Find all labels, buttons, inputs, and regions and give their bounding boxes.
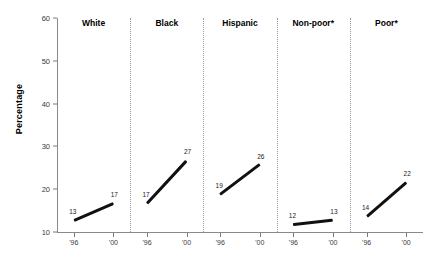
data-point-label: 13: [330, 208, 337, 215]
x-tick-label: '96: [216, 239, 225, 246]
y-tick-label: 30: [30, 142, 50, 151]
data-point-label: 13: [69, 208, 76, 215]
x-tick-label: '00: [402, 239, 411, 246]
x-tick-mark: [293, 233, 294, 237]
x-axis-line: [57, 232, 423, 233]
panel-separator: [203, 18, 204, 232]
data-point-label: 17: [142, 191, 149, 198]
x-tick-mark: [74, 233, 75, 237]
chart-container: Percentage 102030405060 White'96'001317B…: [0, 0, 429, 260]
panel-title-hispanic: Hispanic: [222, 18, 257, 28]
x-tick-label: '96: [289, 239, 298, 246]
y-tick-label: 60: [30, 14, 50, 23]
series-line: [366, 181, 407, 217]
x-tick-mark: [333, 233, 334, 237]
panel-title-white: White: [82, 18, 105, 28]
series-line: [146, 160, 188, 205]
data-point-label: 27: [184, 148, 191, 155]
x-tick-mark: [187, 233, 188, 237]
data-point-label: 26: [257, 153, 264, 160]
panel-separator: [277, 18, 278, 232]
series-line: [73, 202, 114, 222]
x-tick-mark: [113, 233, 114, 237]
x-tick-label: '00: [255, 239, 264, 246]
panel-title-nonpoor: Non-poor*: [292, 18, 334, 28]
data-point-label: 19: [216, 182, 223, 189]
data-point-label: 22: [404, 170, 411, 177]
y-tick-label: 40: [30, 99, 50, 108]
x-tick-label: '00: [328, 239, 337, 246]
panel-separator: [350, 18, 351, 232]
panel-separator: [130, 18, 131, 232]
x-tick-label: '96: [142, 239, 151, 246]
x-tick-label: '96: [69, 239, 78, 246]
data-point-label: 14: [362, 204, 369, 211]
data-point-label: 17: [111, 191, 118, 198]
x-tick-mark: [406, 233, 407, 237]
y-tick-label: 50: [30, 56, 50, 65]
series-line: [293, 219, 333, 226]
x-tick-mark: [367, 233, 368, 237]
y-tick-label: 10: [30, 228, 50, 237]
x-tick-mark: [220, 233, 221, 237]
y-axis-title: Percentage: [14, 64, 24, 154]
panel-title-black: Black: [155, 18, 178, 28]
x-tick-mark: [260, 233, 261, 237]
y-tick-label: 20: [30, 185, 50, 194]
x-tick-label: '96: [362, 239, 371, 246]
y-axis-line: [57, 18, 58, 232]
x-tick-mark: [147, 233, 148, 237]
x-tick-label: '00: [182, 239, 191, 246]
series-line: [219, 164, 260, 196]
data-point-label: 12: [289, 212, 296, 219]
x-tick-label: '00: [109, 239, 118, 246]
panel-title-poor: Poor*: [375, 18, 398, 28]
